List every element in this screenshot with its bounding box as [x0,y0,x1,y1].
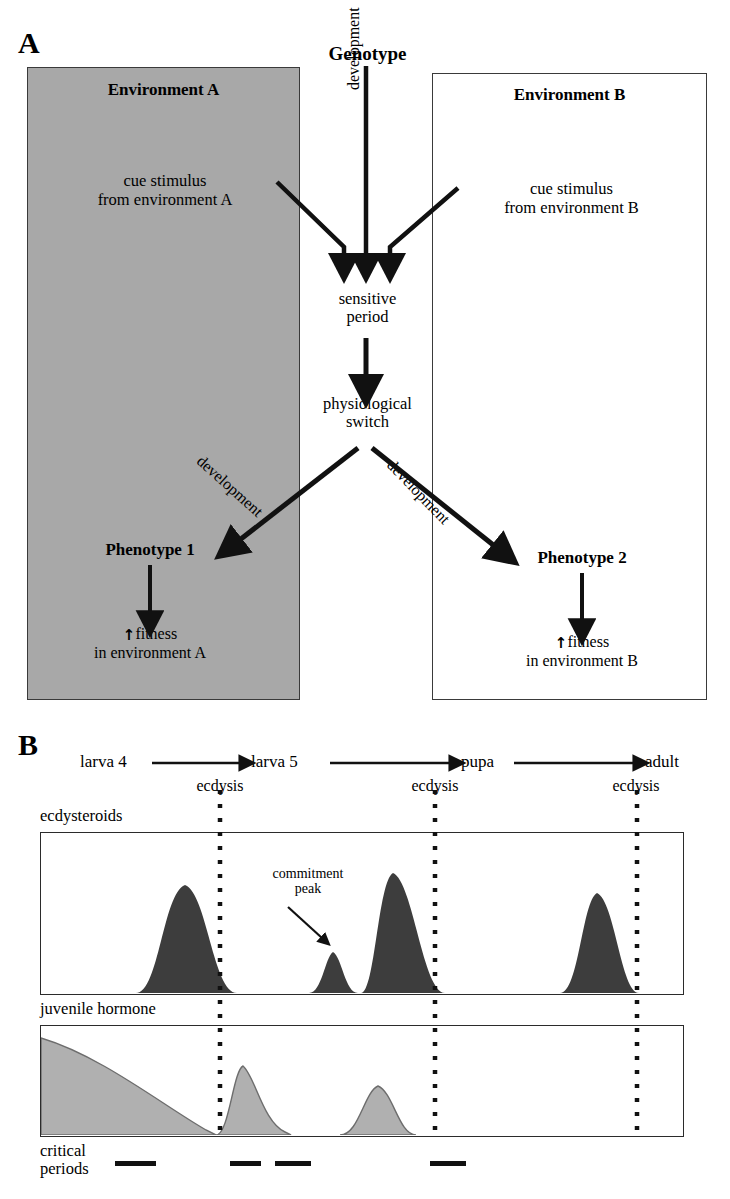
stage-label-pupa: pupa [461,752,494,772]
fitness-word-a: fitness [135,625,177,642]
environment-a-cue-line2: from environment A [98,190,233,209]
critical-period-bar-3 [275,1161,311,1166]
figure-root: A Environment A Environment B cue stimul… [0,0,730,1199]
fitness-up-arrow-a: ↑ [123,626,136,644]
jh-peak-larva5 [216,1066,291,1135]
jh-decay-larva4 [41,1038,216,1135]
phenotype-1-label: Phenotype 1 [55,540,245,560]
jh-peak-pupa [340,1086,416,1135]
ecdysteroid-peak-pupa [560,893,639,993]
juvenile-hormone-plot [40,1025,684,1137]
commitment-peak-annotation-line2: peak [295,881,321,896]
environment-a-title: Environment A [27,80,300,100]
critical-period-bar-1 [115,1161,156,1166]
fitness-up-arrow-b: ↑ [555,634,568,652]
critical-period-bar-4 [430,1161,466,1166]
panel-a-letter: A [18,28,40,58]
physiological-switch-line2: switch [346,412,389,431]
critical-periods-label-line2: periods [40,1159,89,1178]
fitness-word-b: fitness [567,633,609,650]
commitment-peak-annotation-line1: commitment [273,866,344,881]
critical-periods-label-line1: critical [40,1141,86,1160]
critical-period-bar-2 [230,1161,261,1166]
ecdysis-label-3: ecdysis [584,777,688,795]
environment-a-box [27,67,300,700]
development-label-vertical: development [345,7,363,90]
ecdysteroid-peak-larva5 [361,873,445,993]
ecdysis-label-2: ecdysis [383,777,487,795]
ecdysteroids-plot [40,832,684,995]
ecdysteroid-commitment-peak [309,952,358,993]
ecdysteroid-peak-larva4 [136,885,237,993]
sensitive-period-line2: period [346,307,388,326]
ecdysis-label-1: ecdysis [168,777,272,795]
environment-b-title: Environment B [432,85,707,105]
fitness-env-b-line2: in environment B [526,652,638,669]
sensitive-period-line1: sensitive [339,289,397,308]
fitness-env-a-line2: in environment A [94,644,206,661]
stage-label-larva-4: larva 4 [80,752,127,772]
ecdysteroids-curve [41,833,682,993]
juvenile-hormone-curve [41,1026,682,1135]
phenotype-2-label: Phenotype 2 [487,548,677,568]
ecdysteroids-title: ecdysteroids [40,806,122,826]
genotype-label: Genotype [300,43,435,65]
panel-b-letter: B [18,730,38,760]
environment-b-box [432,73,707,700]
environment-b-cue-line2: from environment B [504,198,639,217]
environment-b-cue-line1: cue stimulus [530,179,613,198]
physiological-switch-line1: physiological [323,394,412,413]
stage-label-adult: adult [645,752,679,772]
juvenile-hormone-title: juvenile hormone [40,999,156,1019]
environment-a-cue-line1: cue stimulus [124,171,207,190]
stage-label-larva-5: larva 5 [251,752,298,772]
